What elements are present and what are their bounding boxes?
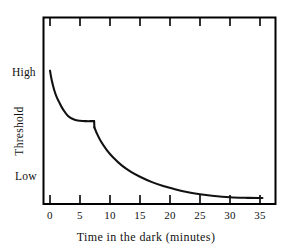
x-tick-label-5: 5 [67, 209, 93, 221]
x-tick-label-10: 10 [97, 209, 123, 221]
dark-adaptation-chart-figure: High Low Threshold 0 5 10 15 20 25 30 35… [0, 0, 292, 252]
x-axis-title: Time in the dark (minutes) [0, 230, 292, 245]
x-tick-label-25: 25 [187, 209, 213, 221]
y-axis-label-low: Low [15, 170, 37, 182]
cone-branch-curve [50, 71, 94, 122]
plot-frame-rect [44, 18, 276, 205]
x-tick-label-35: 35 [247, 209, 273, 221]
data-curves [50, 71, 262, 198]
x-tick-label-0: 0 [37, 209, 63, 221]
x-tick-label-15: 15 [127, 209, 153, 221]
y-axis-title: Threshold [13, 96, 25, 166]
y-axis-label-high: High [12, 66, 36, 78]
plot-frame [44, 18, 276, 205]
top-axis-ticks [50, 18, 260, 26]
x-tick-label-20: 20 [157, 209, 183, 221]
rod-branch-curve [94, 127, 262, 198]
x-tick-label-30: 30 [217, 209, 243, 221]
